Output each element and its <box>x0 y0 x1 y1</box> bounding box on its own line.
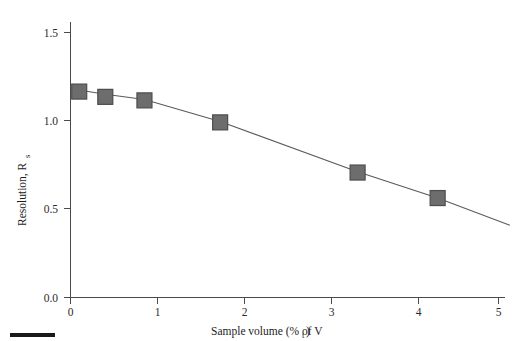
x-axis-ticks <box>71 298 499 305</box>
y-axis-title-main: Resolution, R <box>16 162 29 226</box>
x-tick-label-1: 1 <box>155 306 161 318</box>
y-axis-title-subscript: s <box>22 155 32 158</box>
data-point <box>137 93 152 108</box>
y-tick-label-1-0: 1.0 <box>44 115 59 127</box>
x-tick-label-4: 4 <box>416 306 422 318</box>
data-point <box>213 115 228 130</box>
x-tick-label-5: 5 <box>496 306 502 318</box>
x-tick-label-3: 3 <box>329 306 335 318</box>
data-point <box>72 84 87 99</box>
resolution-scatter-chart: 1.5 1.0 0.5 0.0 0 1 2 3 4 5 Sample volum… <box>0 0 517 341</box>
y-axis-title: Resolution, R s <box>16 155 32 226</box>
y-tick-label-0-0: 0.0 <box>44 292 59 304</box>
y-tick-label-0-5: 0.5 <box>44 203 59 215</box>
data-point <box>350 165 365 180</box>
x-tick-label-0: 0 <box>68 306 74 318</box>
data-point <box>430 191 445 206</box>
data-point <box>98 89 113 104</box>
y-axis-ticks <box>64 33 71 298</box>
y-tick-label-1-5: 1.5 <box>44 27 59 39</box>
data-point-group <box>72 84 445 205</box>
x-tick-label-2: 2 <box>242 306 248 318</box>
chart-figure: 1.5 1.0 0.5 0.0 0 1 2 3 4 5 Sample volum… <box>0 0 517 341</box>
x-axis-title: Sample volume (% of V t ) <box>211 325 323 340</box>
corner-scale-bar <box>10 333 55 337</box>
x-axis-title-tail: ) <box>306 325 310 338</box>
